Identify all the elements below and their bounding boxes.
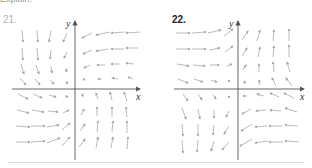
divider xyxy=(8,162,304,163)
axes-22 xyxy=(174,21,304,160)
x-axis-label-21: x xyxy=(135,91,141,102)
axes-21 xyxy=(12,21,140,160)
y-axis-label-22: y xyxy=(228,18,234,29)
vector-field-22: y x xyxy=(156,0,312,168)
y-axis-label-21: y xyxy=(65,18,71,29)
x-axis-label-22: x xyxy=(299,91,305,102)
vector-field-21: y x xyxy=(0,0,156,168)
arrows-22 xyxy=(176,29,299,153)
arrows-21 xyxy=(16,30,140,149)
